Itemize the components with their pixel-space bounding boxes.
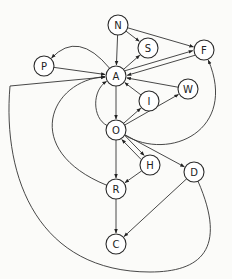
- node-s: S: [138, 38, 158, 58]
- edge-h-to-r: [125, 171, 142, 183]
- node-h: H: [140, 155, 160, 175]
- node-label: N: [114, 20, 121, 31]
- node-label: O: [112, 125, 120, 136]
- node-n: N: [108, 15, 128, 35]
- directed-graph: NSFPAWIOHDRC: [0, 0, 232, 279]
- edge-a-to-f: [125, 51, 193, 71]
- node-label: P: [41, 61, 47, 72]
- node-label: W: [183, 84, 193, 95]
- edge-n-to-f: [128, 28, 194, 47]
- node-o: O: [106, 120, 126, 140]
- node-label: I: [148, 96, 151, 107]
- node-d: D: [184, 162, 204, 182]
- edge-w-to-a: [127, 78, 178, 87]
- node-label: D: [190, 167, 198, 178]
- edge-o-to-a: [96, 82, 107, 126]
- edge-f-to-a: [127, 55, 195, 75]
- edge-n-to-s: [126, 31, 139, 41]
- edge-r-to-a: [52, 77, 107, 186]
- node-label: A: [113, 71, 120, 82]
- node-i: I: [139, 91, 159, 111]
- edge-o-to-f: [125, 60, 216, 144]
- nodes-layer: NSFPAWIOHDRC: [34, 15, 214, 254]
- node-p: P: [34, 56, 54, 76]
- node-label: R: [113, 184, 120, 195]
- node-a: A: [106, 66, 126, 86]
- node-w: W: [178, 79, 198, 99]
- edge-i-to-a: [125, 83, 141, 95]
- edge-d-to-c: [124, 179, 187, 237]
- node-label: S: [145, 43, 151, 54]
- node-c: C: [106, 234, 126, 254]
- node-r: R: [106, 179, 126, 199]
- node-label: F: [201, 45, 207, 56]
- edge-p-to-a: [54, 67, 105, 74]
- node-f: F: [194, 40, 214, 60]
- node-label: H: [146, 160, 154, 171]
- edge-n-to-a: [116, 35, 117, 65]
- edge-a-to-p: [52, 46, 110, 68]
- node-label: C: [113, 239, 120, 250]
